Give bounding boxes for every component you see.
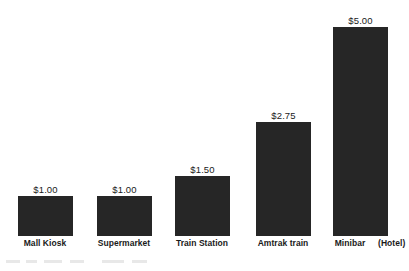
bar-rect[interactable] — [175, 176, 230, 236]
bar-group-0: $1.00 — [18, 0, 73, 236]
cat-label-train-station: Train Station — [176, 238, 228, 249]
bar-rect[interactable] — [333, 27, 388, 236]
bar-rect[interactable] — [18, 196, 73, 236]
cat-label-amtrak-train: Amtrak train — [258, 238, 309, 249]
bar-value-label: $1.00 — [33, 184, 57, 195]
cat-label-minibar: Minibar — [335, 238, 366, 249]
bar-value-label: $1.00 — [112, 184, 136, 195]
category-axis: Mall Kiosk Supermarket Train Station Amt… — [0, 236, 409, 252]
caption-ink — [6, 260, 206, 263]
plot-area: $1.00 $1.00 $1.50 $2.75 $5.00 — [0, 0, 409, 236]
cat-label-hotel-annotation: (Hotel) — [378, 238, 405, 249]
cat-label-supermarket: Supermarket — [98, 238, 151, 249]
bar-group-4: $5.00 — [333, 0, 388, 236]
bar-chart: $1.00 $1.00 $1.50 $2.75 $5.00 Mall Kiosk… — [0, 0, 409, 271]
bar-group-3: $2.75 — [256, 0, 311, 236]
bar-group-2: $1.50 — [175, 0, 230, 236]
cat-label-mall-kiosk: Mall Kiosk — [24, 238, 67, 249]
bar-group-1: $1.00 — [97, 0, 152, 236]
bar-rect[interactable] — [256, 122, 311, 236]
bar-value-label: $1.50 — [190, 164, 214, 175]
bar-rect[interactable] — [97, 196, 152, 236]
bar-value-label: $5.00 — [348, 15, 372, 26]
bar-value-label: $2.75 — [271, 110, 295, 121]
cropped-caption-artifact — [6, 259, 206, 266]
